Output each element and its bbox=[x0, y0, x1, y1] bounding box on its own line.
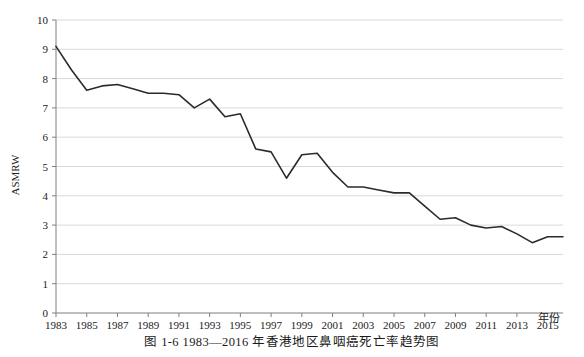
y-tick-label: 7 bbox=[43, 102, 49, 114]
x-tick-label: 2009 bbox=[444, 319, 467, 330]
x-tick-label: 2003 bbox=[352, 319, 375, 330]
y-tick-label: 3 bbox=[43, 219, 49, 231]
x-tick-label: 1985 bbox=[76, 319, 99, 330]
y-tick-labels-group: 012345678910 bbox=[37, 14, 49, 319]
y-tick-label: 2 bbox=[43, 248, 49, 260]
figure-container: 012345678910 198319851987198919911993199… bbox=[0, 0, 584, 357]
line-chart-svg: 012345678910 198319851987198919911993199… bbox=[0, 0, 584, 330]
x-tick-label: 1983 bbox=[45, 319, 68, 330]
figure-caption: 图 1-6 1983—2016 年香港地区鼻咽癌死亡率趋势图 bbox=[0, 331, 584, 350]
x-tick-marks-group bbox=[56, 313, 548, 317]
y-tick-label: 6 bbox=[43, 131, 49, 143]
y-axis-title: ASMRW bbox=[9, 154, 21, 196]
x-axis-title: 年份 bbox=[538, 311, 560, 324]
y-tick-label: 1 bbox=[43, 278, 49, 290]
y-tick-label: 0 bbox=[43, 307, 49, 319]
x-tick-label: 1997 bbox=[260, 319, 283, 330]
y-tick-marks-group bbox=[52, 20, 56, 313]
x-tick-label: 1989 bbox=[137, 319, 160, 330]
y-tick-label: 10 bbox=[37, 14, 49, 26]
x-tick-label: 1995 bbox=[229, 319, 252, 330]
x-tick-label: 2005 bbox=[383, 319, 406, 330]
data-series-line bbox=[56, 46, 563, 242]
y-tick-label: 9 bbox=[43, 43, 49, 55]
x-tick-label: 1999 bbox=[291, 319, 314, 330]
x-tick-label: 2001 bbox=[322, 319, 344, 330]
y-tick-label: 4 bbox=[43, 190, 49, 202]
x-tick-label: 2011 bbox=[475, 319, 497, 330]
y-tick-label: 5 bbox=[43, 161, 49, 173]
x-tick-label: 1987 bbox=[106, 319, 129, 330]
chart-plot-area: 012345678910 198319851987198919911993199… bbox=[0, 0, 584, 330]
x-tick-label: 1991 bbox=[168, 319, 190, 330]
x-tick-label: 2013 bbox=[506, 319, 529, 330]
x-tick-labels-group: 1983198519871989199119931995199719992001… bbox=[45, 319, 559, 330]
gridlines-group bbox=[56, 20, 563, 284]
x-tick-label: 1993 bbox=[199, 319, 222, 330]
x-tick-label: 2007 bbox=[414, 319, 437, 330]
y-tick-label: 8 bbox=[43, 73, 49, 85]
